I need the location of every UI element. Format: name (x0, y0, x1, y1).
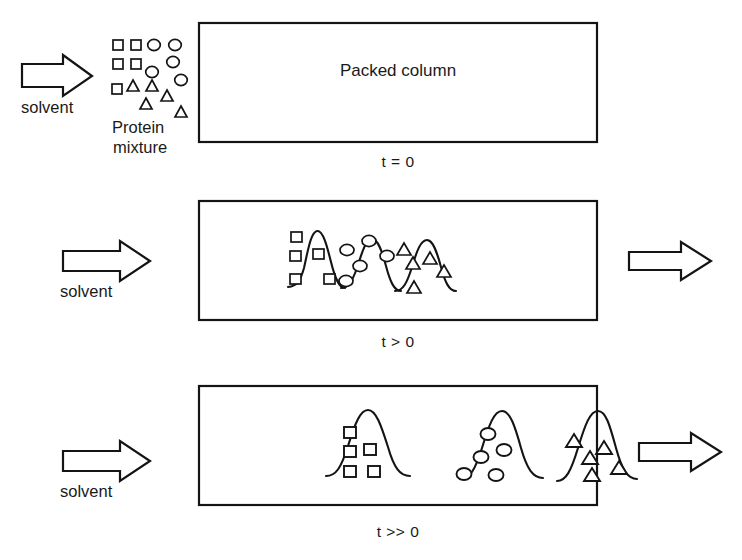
stage-tmuchgt0: solvent t >> 0 (60, 386, 721, 540)
time-label-row3: t >> 0 (377, 523, 420, 540)
time-label-row1: t = 0 (381, 153, 414, 170)
circle-glyph (175, 74, 188, 85)
stage-tgt0: solvent t > 0 (60, 201, 711, 350)
square-glyph (290, 274, 301, 284)
packed-column-box-row1 (199, 23, 597, 142)
square-glyph (344, 446, 356, 457)
circle-glyph (169, 39, 182, 50)
packed-column-box-row2 (199, 201, 597, 320)
circle-glyph (380, 250, 394, 261)
square-glyph (112, 84, 122, 94)
stage-t0: solvent Protein mixture (21, 23, 597, 170)
triangle-glyph (146, 80, 158, 91)
protein-mixture-cloud (112, 39, 187, 117)
circle-glyph (474, 451, 489, 463)
square-glyph (290, 251, 301, 261)
diagram-canvas: solvent Protein mixture (0, 0, 742, 560)
triangle-glyph (175, 106, 187, 117)
square-glyph (113, 59, 123, 69)
solvent-label-row2: solvent (60, 282, 113, 300)
triangle-glyph (161, 90, 173, 101)
triangle-glyph (596, 441, 612, 454)
inlet-arrow-icon-row1 (22, 55, 92, 96)
square-glyph (113, 40, 123, 50)
solvent-label-row3: solvent (60, 482, 113, 500)
square-glyph (291, 232, 302, 242)
triangle-glyph (611, 461, 627, 474)
protein-mixture-label-line1: Protein (112, 118, 164, 136)
circle-glyph (339, 275, 353, 286)
circle-glyph (353, 260, 367, 271)
solvent-label-row1: solvent (21, 98, 74, 116)
packed-column-label: Packed column (340, 61, 456, 80)
chromatography-diagram: solvent Protein mixture (0, 0, 742, 560)
square-glyph (324, 274, 335, 284)
triangle-glyph (140, 98, 152, 109)
square-glyph (131, 40, 141, 50)
circle-glyph (340, 244, 354, 255)
square-glyph (131, 59, 141, 69)
circle-glyph (497, 444, 512, 456)
inlet-arrow-icon-row3 (63, 441, 150, 481)
time-label-row2: t > 0 (381, 333, 414, 350)
square-glyph (344, 427, 356, 438)
circle-glyph (457, 468, 472, 480)
packed-column-box-row3 (199, 386, 597, 505)
square-glyph (368, 466, 380, 477)
inlet-arrow-icon-row2 (63, 241, 150, 281)
triangle-glyph (127, 80, 139, 91)
circle-glyph (146, 66, 159, 77)
circle-glyph (362, 235, 376, 246)
square-glyph (344, 466, 356, 477)
circle-glyph (167, 56, 180, 67)
square-glyph (313, 249, 324, 259)
circle-glyph (481, 428, 496, 440)
circle-glyph (148, 39, 161, 50)
outlet-arrow-icon-row3 (639, 433, 721, 471)
square-glyph (364, 444, 376, 455)
outlet-arrow-icon-row2 (629, 242, 711, 280)
circle-glyph (489, 469, 504, 481)
protein-mixture-label-line2: mixture (113, 138, 167, 156)
